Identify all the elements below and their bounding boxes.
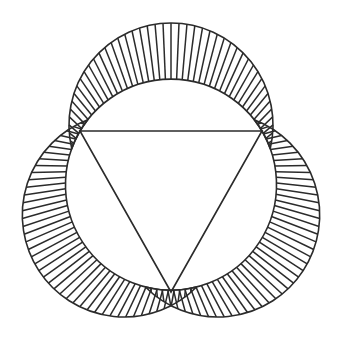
right-lune-hatch-line xyxy=(276,172,311,173)
lunes-geometry-diagram xyxy=(0,0,343,346)
figure-container xyxy=(0,0,343,346)
left-lune-hatch-line xyxy=(35,165,67,166)
right-lune-hatch-line xyxy=(275,165,307,166)
left-lune-hatch-line xyxy=(32,172,67,173)
